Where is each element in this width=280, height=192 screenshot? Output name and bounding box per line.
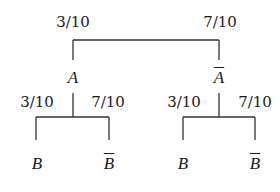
right-prob-b-label: 3/10 bbox=[167, 95, 201, 110]
event-not-a-label: A bbox=[214, 69, 224, 86]
event-a-label: A bbox=[68, 69, 78, 86]
left-prob-not-b-label: 7/10 bbox=[91, 95, 125, 110]
right-event-not-b-label: B bbox=[250, 155, 260, 172]
left-event-not-b-label: B bbox=[104, 155, 114, 172]
right-prob-not-b-label: 7/10 bbox=[238, 95, 272, 110]
right-event-b-label: B bbox=[178, 155, 188, 172]
probability-tree-diagram: 3/10 7/10 A A 3/10 7/10 3/10 7/10 B B B … bbox=[0, 0, 280, 192]
prob-a-label: 3/10 bbox=[56, 15, 90, 30]
left-prob-b-label: 3/10 bbox=[20, 95, 54, 110]
prob-not-a-label: 7/10 bbox=[203, 15, 237, 30]
left-event-b-label: B bbox=[32, 155, 42, 172]
